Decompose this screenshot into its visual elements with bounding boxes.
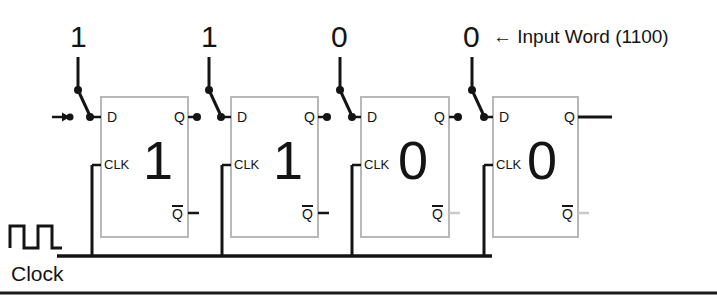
qbar-pin-3: Q	[432, 206, 443, 222]
stored-value-3: 0	[398, 133, 428, 187]
qbar-pin-label-1: Q	[172, 206, 183, 222]
qbar-overline-3	[432, 205, 443, 207]
d-pin-label-2: D	[237, 110, 247, 124]
qbar-pin-4: Q	[562, 206, 573, 222]
qbar-pin-label-2: Q	[302, 206, 313, 222]
input-word-annotation: ← Input Word (1100)	[493, 27, 669, 46]
stored-value-2: 1	[273, 133, 303, 187]
d-pin-label-4: D	[499, 110, 509, 124]
q-pin-label-2: Q	[304, 110, 315, 124]
input-bit-label-4: 0	[463, 22, 480, 52]
qbar-pin-label-4: Q	[562, 206, 573, 222]
clock-label: Clock	[11, 263, 64, 284]
qbar-overline-4	[562, 205, 573, 207]
q-output-dot-1	[193, 113, 201, 121]
clock-waveform-icon	[10, 226, 62, 248]
clk-pin-label-3: CLK	[364, 158, 389, 171]
q-output-dot-3	[454, 113, 462, 121]
switch-blade-1[interactable]	[78, 90, 90, 116]
q-pin-label-1: Q	[174, 110, 185, 124]
q-output-dot-2	[323, 113, 331, 121]
d-pin-label-3: D	[367, 110, 377, 124]
source-node-dot-1	[67, 114, 74, 121]
q-pin-label-3: Q	[434, 110, 445, 124]
qbar-pin-2: Q	[302, 206, 313, 222]
q-pin-label-4: Q	[564, 110, 575, 124]
stored-value-4: 0	[527, 133, 557, 187]
switch-blade-3[interactable]	[340, 90, 352, 116]
qbar-pin-1: Q	[172, 206, 183, 222]
clk-pin-label-2: CLK	[234, 158, 259, 171]
input-bit-label-2: 1	[201, 22, 218, 52]
d-pin-label-1: D	[107, 110, 117, 124]
shift-register-diagram: 1 1 0 0 ← Input Word (1100) D CLK Q Q 1 …	[0, 0, 717, 305]
clk-pin-label-1: CLK	[104, 158, 129, 171]
stored-value-1: 1	[143, 133, 173, 187]
input-bit-label-1: 1	[70, 22, 87, 52]
qbar-pin-label-3: Q	[432, 206, 443, 222]
qbar-overline-1	[172, 205, 183, 207]
qbar-overline-2	[302, 205, 313, 207]
switch-blade-4[interactable]	[472, 90, 484, 116]
input-bit-label-3: 0	[331, 22, 348, 52]
switch-blade-2[interactable]	[209, 90, 221, 116]
clk-pin-label-4: CLK	[496, 158, 521, 171]
